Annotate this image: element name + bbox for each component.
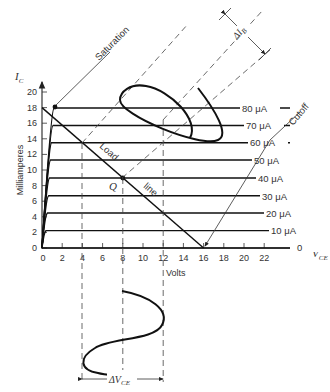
svg-text:14: 14 — [178, 253, 188, 263]
svg-text:20: 20 — [27, 87, 37, 97]
svg-text:12: 12 — [27, 149, 37, 159]
curve-30uA — [42, 196, 290, 248]
svg-text:10 μA: 10 μA — [271, 225, 297, 236]
svg-text:80 μA: 80 μA — [242, 103, 268, 114]
x-axis-title: Volts — [166, 268, 186, 278]
svg-text:2: 2 — [32, 227, 37, 237]
svg-text:0: 0 — [32, 243, 37, 253]
svg-text:18: 18 — [27, 103, 37, 113]
svg-text:22: 22 — [259, 253, 269, 263]
svg-text:8: 8 — [32, 181, 37, 191]
svg-text:20: 20 — [239, 253, 249, 263]
svg-text:0: 0 — [297, 242, 302, 253]
svg-text:16: 16 — [27, 118, 37, 128]
svg-text:40 μA: 40 μA — [258, 173, 284, 184]
svg-text:70 μA: 70 μA — [246, 120, 272, 131]
svg-text:0: 0 — [40, 253, 45, 263]
svg-text:10: 10 — [138, 253, 148, 263]
transistor-load-line-diagram: 0 2 4 6 8 10 12 14 16 18 20 0 2 4 6 8 10… — [0, 0, 330, 392]
y-axis-title: Milliamperes — [15, 144, 25, 195]
q-label: Q — [109, 180, 117, 192]
svg-text:30 μA: 30 μA — [262, 191, 288, 202]
svg-text:6: 6 — [100, 253, 105, 263]
svg-text:2: 2 — [60, 253, 65, 263]
svg-text:16: 16 — [199, 253, 209, 263]
vce-signal-curve — [83, 291, 163, 376]
saturation-label: Saturation — [93, 24, 131, 62]
x-tick-labels: 0 2 4 6 8 10 12 14 16 18 20 22 — [40, 253, 269, 263]
svg-text:18: 18 — [219, 253, 229, 263]
ib-signal-curve — [120, 85, 222, 141]
svg-text:6: 6 — [32, 196, 37, 206]
svg-text:4: 4 — [32, 212, 37, 222]
curve-50uA — [42, 160, 290, 248]
svg-text:20 μA: 20 μA — [266, 208, 292, 219]
y-tick-labels: 0 2 4 6 8 10 12 14 16 18 20 — [27, 87, 37, 253]
svg-text:14: 14 — [27, 134, 37, 144]
cutoff-label: Cutoff — [286, 101, 311, 128]
y-axis-symbol: IC — [14, 70, 24, 85]
curve-10uA — [42, 231, 290, 248]
svg-text:10: 10 — [27, 165, 37, 175]
saturation-point — [53, 105, 58, 110]
